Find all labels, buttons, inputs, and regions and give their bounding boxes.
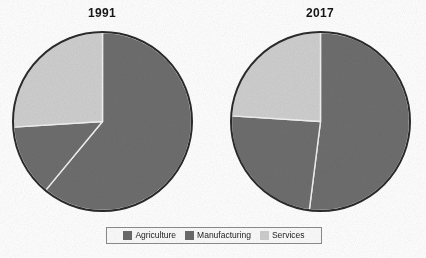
pie-slice-agriculture [309,33,409,211]
legend-swatch-agriculture [123,231,132,240]
legend-label-services: Services [272,231,305,240]
legend-swatch-services [260,231,269,240]
legend-swatch-manufacturing [185,231,194,240]
legend-item-agriculture: Agriculture [123,231,176,240]
pie-1991-slices [14,33,192,211]
pie-slice-services [232,33,321,122]
pie-2017 [229,30,412,217]
legend-label-agriculture: Agriculture [135,231,176,240]
legend-item-services: Services [260,231,305,240]
legend-item-manufacturing: Manufacturing [185,231,251,240]
legend-label-manufacturing: Manufacturing [197,231,251,240]
pie-title-1991: 1991 [62,6,142,20]
pie-2017-svg [229,30,412,213]
chart-legend: Agriculture Manufacturing Services [106,227,322,244]
pie-2017-slices [232,33,410,211]
pie-slice-manufacturing [232,116,321,210]
pie-1991-svg [11,30,194,213]
pie-slice-services [14,33,103,128]
pie-1991 [11,30,194,217]
pie-chart-figure: 1991 2017 Agriculture Manufacturing Serv… [0,0,426,258]
pie-title-2017: 2017 [280,6,360,20]
